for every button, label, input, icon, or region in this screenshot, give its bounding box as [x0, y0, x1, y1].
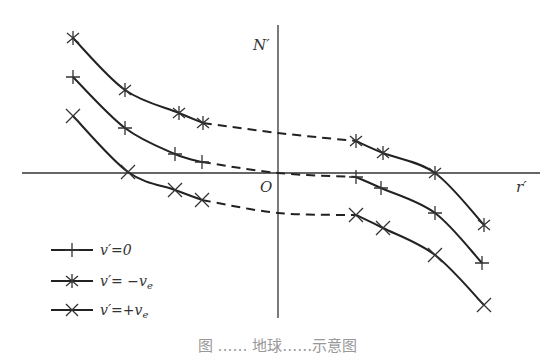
plus-marker-icon	[349, 170, 363, 184]
curve-segment	[73, 38, 203, 123]
asterisk-marker-icon	[173, 106, 185, 120]
dashed-segment	[202, 200, 356, 215]
legend-item-v0: v′=0	[51, 242, 132, 258]
asterisk-marker-icon	[377, 146, 389, 160]
cross-marker-icon	[121, 165, 135, 179]
cross-marker-icon	[477, 298, 491, 312]
legend: v′=0 v′= −ve v′=+ve	[51, 242, 153, 320]
plus-marker-icon	[168, 147, 182, 161]
curve-segment	[73, 77, 202, 162]
cross-marker-icon	[168, 183, 182, 197]
cross-marker-icon	[376, 221, 390, 235]
svg-text:v′= −ve: v′= −ve	[100, 273, 153, 291]
dashed-segment	[203, 123, 356, 141]
plus-marker-icon	[195, 155, 209, 169]
asterisk-marker-icon	[350, 134, 362, 148]
curve-segment	[356, 177, 482, 263]
svg-text:v′=+ve: v′=+ve	[100, 302, 148, 320]
legend-item-minus-ve: v′= −ve	[51, 273, 153, 291]
plus-marker-icon	[374, 181, 388, 195]
cross-marker-icon	[66, 109, 80, 123]
cross-marker-icon	[428, 248, 442, 262]
figure-caption: 图 …… 地球……示意图	[0, 334, 555, 355]
origin-label: O	[260, 178, 272, 196]
x-axis-label: r′	[516, 178, 527, 196]
legend-item-plus-ve: v′=+ve	[51, 302, 148, 320]
y-axis-label: N′	[252, 36, 270, 54]
curve-segment	[356, 141, 484, 225]
svg-text:v′=0: v′=0	[100, 242, 132, 258]
curve-segment	[356, 215, 484, 305]
asterisk-marker-icon	[119, 83, 131, 97]
dashed-segment	[202, 162, 356, 177]
